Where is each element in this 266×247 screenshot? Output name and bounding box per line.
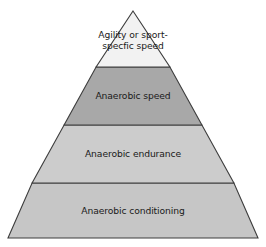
pyramid-tier-3-shape [32, 125, 234, 183]
pyramid-tier-4-shape [8, 183, 258, 238]
pyramid-shape [0, 0, 266, 247]
pyramid-tier-1-shape [96, 11, 170, 67]
pyramid-diagram-canvas: Agility or sport- specfic speed Anaerobi… [0, 0, 266, 247]
pyramid-tier-2-shape [64, 67, 202, 125]
